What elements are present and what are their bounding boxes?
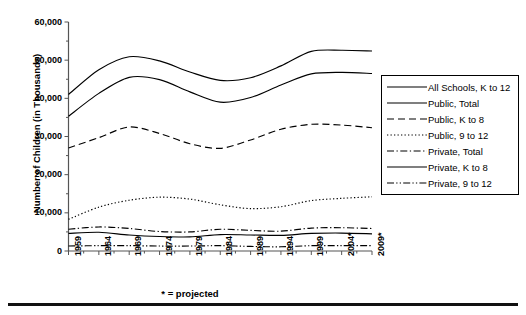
legend-label: Private, Total [428, 146, 483, 157]
legend-line-swatch-icon [386, 161, 428, 173]
legend-label: All Schools, K to 12 [428, 82, 510, 93]
legend-item[interactable]: Public, 9 to 12 [384, 127, 516, 143]
legend-item[interactable]: Private, Total [384, 143, 516, 159]
chart-figure: Number of Children (in Thousands) 010,00… [0, 0, 526, 315]
bottom-divider [8, 303, 518, 306]
chart-legend: All Schools, K to 12Public, TotalPublic,… [381, 75, 519, 195]
series-line [69, 124, 373, 148]
legend-line-swatch-icon [386, 177, 428, 189]
axes [65, 22, 373, 255]
data-series [69, 50, 373, 247]
legend-line-swatch-icon [386, 97, 428, 109]
legend-item[interactable]: All Schools, K to 12 [384, 79, 516, 95]
legend-label: Private, 9 to 12 [428, 178, 492, 189]
series-line [69, 227, 373, 232]
legend-label: Public, K to 8 [428, 114, 484, 125]
series-line [69, 246, 373, 247]
legend-item[interactable]: Public, Total [384, 95, 516, 111]
series-line [69, 232, 373, 237]
legend-line-swatch-icon [386, 145, 428, 157]
legend-line-swatch-icon [386, 129, 428, 141]
series-line [69, 197, 373, 220]
chart-footnote: * = projected [0, 288, 380, 299]
legend-item[interactable]: Private, 9 to 12 [384, 175, 516, 191]
legend-item[interactable]: Public, K to 8 [384, 111, 516, 127]
legend-label: Public, 9 to 12 [428, 130, 488, 141]
series-line [69, 72, 373, 116]
legend-label: Private, K to 8 [428, 162, 488, 173]
legend-item[interactable]: Private, K to 8 [384, 159, 516, 175]
legend-line-swatch-icon [386, 113, 428, 125]
legend-line-swatch-icon [386, 81, 428, 93]
legend-label: Public, Total [428, 98, 479, 109]
